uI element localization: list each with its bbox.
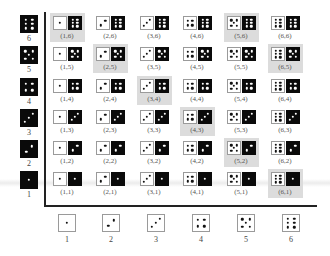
pip: [119, 22, 121, 24]
pip: [289, 18, 291, 20]
pip: [206, 18, 208, 20]
pip: [158, 82, 160, 84]
pip: [287, 222, 289, 224]
die-white-three-icon: [140, 79, 154, 93]
die-black-three-icon: [68, 110, 82, 124]
pip: [279, 18, 281, 20]
row-axis-label: 2: [20, 159, 38, 168]
pip: [186, 113, 188, 115]
pip: [274, 85, 276, 87]
die-white-five-icon: [237, 214, 255, 232]
pip: [76, 87, 78, 89]
pip: [59, 116, 61, 118]
pip: [119, 50, 121, 52]
outcome-label: (2,2): [93, 157, 127, 165]
pip: [32, 113, 34, 115]
pip: [24, 121, 26, 123]
pip: [250, 25, 252, 27]
outcome-label: (6,5): [268, 63, 302, 71]
pip: [143, 25, 145, 27]
pip: [24, 50, 26, 52]
pip: [158, 18, 160, 20]
pip: [292, 178, 294, 180]
pip: [149, 113, 151, 115]
pip: [191, 149, 193, 151]
die-black-two-icon: [286, 141, 300, 155]
pip: [294, 22, 296, 24]
die-white-six-icon: [271, 79, 285, 93]
row-axis-label: 3: [20, 128, 38, 137]
pip: [274, 116, 276, 118]
pip: [279, 147, 281, 149]
pip: [25, 27, 27, 29]
pip: [149, 175, 151, 177]
pip: [248, 225, 250, 227]
column-axis-label: 5: [237, 235, 255, 244]
pip: [230, 180, 232, 182]
outcome-label: (6,4): [268, 95, 302, 103]
pip: [31, 145, 33, 147]
pip: [274, 49, 276, 51]
pip: [201, 25, 203, 27]
outcome-label: (6,1): [268, 188, 302, 196]
die-white-five-icon: [227, 110, 241, 124]
pip: [158, 55, 160, 57]
row-axis-label: 1: [20, 190, 38, 199]
pip: [294, 18, 296, 20]
pip: [292, 116, 294, 118]
pip: [151, 226, 153, 228]
pip: [245, 222, 247, 224]
outcome-label: (2,5): [93, 63, 127, 71]
pip: [31, 57, 33, 59]
pip: [206, 55, 208, 57]
die-white-five-icon: [227, 79, 241, 93]
die-black-five-icon: [20, 46, 38, 64]
pip: [207, 113, 209, 115]
pip: [250, 18, 252, 20]
pip: [119, 82, 121, 84]
die-white-four-icon: [183, 16, 197, 30]
pip: [206, 87, 208, 89]
pip: [235, 82, 237, 84]
outcome-label: (6,6): [268, 32, 302, 40]
pip: [66, 222, 68, 224]
outcome-label: (6,2): [268, 157, 302, 165]
outcome-label: (3,2): [137, 157, 171, 165]
pip: [114, 87, 116, 89]
outcome-label: (3,1): [137, 188, 171, 196]
die-white-six-icon: [282, 214, 300, 232]
pip: [76, 50, 78, 52]
die-black-one-icon: [20, 171, 38, 189]
die-white-three-icon: [140, 141, 154, 155]
pip: [203, 225, 205, 227]
pip: [119, 87, 121, 89]
pip: [71, 119, 73, 121]
pip: [186, 55, 188, 57]
pip: [114, 55, 116, 57]
pip: [100, 180, 102, 182]
pip: [191, 180, 193, 182]
die-black-three-icon: [242, 110, 256, 124]
pip: [25, 89, 27, 91]
pip: [72, 149, 74, 151]
die-white-four-icon: [183, 110, 197, 124]
pip: [287, 217, 289, 219]
pip: [294, 145, 296, 147]
pip: [191, 50, 193, 52]
pip: [71, 82, 73, 84]
pip: [158, 87, 160, 89]
pip: [289, 119, 291, 121]
pip: [76, 82, 78, 84]
die-white-one-icon: [53, 110, 67, 124]
pip: [274, 174, 276, 176]
pip: [235, 180, 237, 182]
pip: [287, 226, 289, 228]
outcome-label: (4,6): [180, 32, 214, 40]
die-white-two-icon: [96, 110, 110, 124]
pip: [294, 50, 296, 52]
pip: [235, 87, 237, 89]
pip: [246, 149, 248, 151]
pip: [274, 119, 276, 121]
die-black-four-icon: [242, 79, 256, 93]
pip: [104, 20, 106, 22]
